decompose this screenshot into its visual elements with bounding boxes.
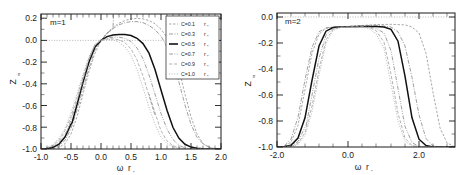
ytick-label: -0.4 [258, 64, 273, 74]
xtick-label: 1.5 [185, 152, 197, 162]
legend-label-var: r [204, 31, 206, 37]
panel-m2-ticklabels-x: -2.0 0.0 2.0 [270, 150, 426, 160]
xlabel-omega: ω [117, 163, 124, 173]
ylabel-subscript: m [17, 73, 21, 76]
panel-m2-ticklabels-y: 0.0 -0.2 -0.4 -0.6 -0.8 -1.0 [258, 12, 273, 152]
ytick-label: -0.6 [258, 90, 273, 100]
legend-label: C=0.9 [181, 61, 195, 67]
legend-label: C=1.0 [181, 71, 195, 77]
figure-root: 0.2 0.0 -0.2 -0.4 -0.6 -0.8 -1.0 Z m [0, 0, 466, 175]
panel-m1-svg: 0.2 0.0 -0.2 -0.4 -0.6 -0.8 -1.0 Z m [0, 0, 233, 175]
panel-m2-ylabel: Z m [243, 75, 256, 87]
legend-label: C=0.7 [181, 51, 195, 57]
panel-m1-xlabel: ω r * [117, 163, 135, 175]
legend-label-var: r [204, 51, 206, 57]
xtick-label: -1.0 [34, 152, 49, 162]
xtick-label: 0.0 [95, 152, 107, 162]
ytick-label: -0.8 [22, 123, 37, 133]
legend-label: C=0.3 [181, 31, 195, 37]
xtick-label: 1.0 [155, 152, 167, 162]
ytick-label: 0.2 [25, 13, 37, 23]
ytick-label: -0.6 [22, 101, 37, 111]
panel-tag-m1: m=1 [50, 18, 66, 27]
legend[interactable]: C=0.1 r * C=0.3 r * C=0.5 r * [166, 16, 219, 79]
xtick-label: 0.5 [125, 152, 137, 162]
xlabel-subscript: * [371, 170, 373, 174]
ytick-label: 0.0 [25, 35, 37, 45]
xlabel-var: r [128, 163, 131, 173]
ylabel-text: Z [8, 79, 18, 84]
panel-m1-ticklabels-y: 0.2 0.0 -0.2 -0.4 -0.6 -0.8 -1.0 [22, 13, 37, 154]
ytick-label: -0.2 [22, 57, 37, 67]
ytick-label: -0.2 [258, 38, 273, 48]
legend-label-var: r [204, 21, 206, 27]
legend-label-var: r [204, 41, 206, 47]
panel-tag-m2: m=2 [285, 17, 301, 26]
xtick-label: -0.5 [64, 152, 79, 162]
ytick-label: -0.4 [22, 79, 37, 89]
legend-label-var: r [204, 71, 206, 77]
ytick-label: 0.0 [261, 12, 273, 22]
xtick-label: -2.0 [270, 150, 285, 160]
panel-m2-xlabel: ω r * [355, 162, 373, 174]
ylabel-text: Z [243, 81, 253, 86]
panel-m1-ticklabels-x: -1.0 -0.5 0.0 0.5 1.0 1.5 2.0 [34, 152, 228, 162]
legend-label: C=0.5 [181, 41, 195, 47]
xlabel-subscript: * [133, 171, 135, 175]
panel-m1: 0.2 0.0 -0.2 -0.4 -0.6 -0.8 -1.0 Z m [0, 0, 233, 175]
xtick-label: 2.0 [413, 150, 425, 160]
legend-label-var: r [204, 61, 206, 67]
panel-m2-svg: 0.0 -0.2 -0.4 -0.6 -0.8 -1.0 Z m [233, 0, 466, 175]
panel-m1-ylabel: Z m [8, 73, 21, 85]
ytick-label: -0.8 [258, 116, 273, 126]
xlabel-omega: ω [355, 162, 362, 172]
legend-label: C=0.1 [181, 21, 195, 27]
xtick-label: 2.0 [215, 152, 227, 162]
xtick-label: 0.0 [342, 150, 354, 160]
xlabel-var: r [366, 162, 369, 172]
panel-m2: 0.0 -0.2 -0.4 -0.6 -0.8 -1.0 Z m [233, 0, 466, 175]
panel-m2-plot-bg [277, 13, 455, 147]
ylabel-subscript: m [252, 75, 256, 78]
